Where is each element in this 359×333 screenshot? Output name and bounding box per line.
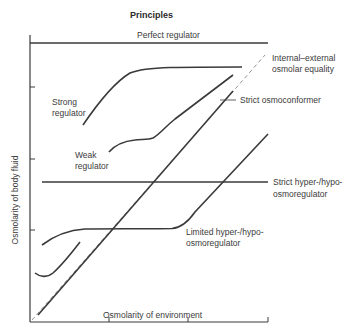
x-axis-label: Osmolarity of environment bbox=[103, 310, 202, 320]
osmoregulation-diagram bbox=[0, 0, 359, 333]
y-axis-label: Osmolarity of body fluid bbox=[10, 145, 20, 255]
strong-regulator-curve bbox=[83, 67, 242, 125]
limited-hyper-hypo-label-line1: Limited hyper-/hypo- bbox=[186, 227, 263, 238]
limited-hyper-hypo-label-line2: osmoregulator bbox=[186, 238, 240, 249]
strict-osmoconformer-label: Strict osmoconformer bbox=[240, 95, 321, 106]
weak-regulator-label-line1: Weak bbox=[75, 150, 97, 161]
weak-regulator-label-line2: regulator bbox=[75, 161, 109, 172]
equality-label-line2: osmolar equality bbox=[272, 64, 334, 75]
perfect-regulator-label: Perfect regulator bbox=[137, 30, 200, 41]
equality-label-line1: Internal–external bbox=[272, 53, 335, 64]
lower-conformer-curve bbox=[35, 242, 80, 276]
strict-hyper-hypo-label-line2: osmoregulator bbox=[273, 189, 327, 200]
strong-regulator-label-line2: regulator bbox=[52, 108, 86, 119]
strict-hyper-hypo-label-line1: Strict hyper-/hypo- bbox=[273, 177, 342, 188]
strong-regulator-label-line1: Strong bbox=[52, 97, 77, 108]
